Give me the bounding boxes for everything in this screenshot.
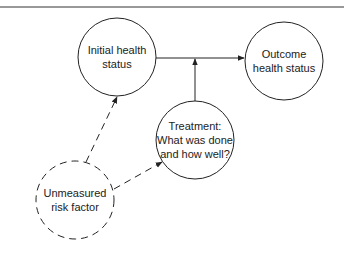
label-outcome-health-status: Outcome health status	[244, 47, 324, 75]
label-treatment: Treatment: What was done and how well?	[155, 119, 235, 161]
edge-unmeasured-to-treatment	[114, 162, 162, 189]
edge-unmeasured-to-initial	[86, 97, 117, 162]
label-initial-health-status: Initial health status	[77, 43, 157, 71]
label-unmeasured-risk-factor: Unmeasured risk factor	[35, 186, 115, 214]
